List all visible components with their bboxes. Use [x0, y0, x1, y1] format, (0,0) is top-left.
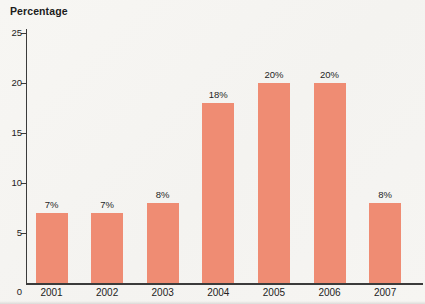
bar-2001	[36, 213, 68, 283]
x-category-label: 2003	[141, 287, 185, 299]
x-category-label: 2002	[85, 287, 129, 299]
y-tick-label: 25	[0, 28, 22, 38]
bar-chart: Percentage 05101520257%20017%20028%20031…	[0, 0, 425, 304]
x-category-label: 2006	[308, 287, 352, 299]
x-category-label: 2001	[30, 287, 74, 299]
bar-value-label: 8%	[363, 189, 407, 200]
x-category-label: 2007	[363, 287, 407, 299]
x-category-label: 2005	[252, 287, 296, 299]
bar-2006	[314, 83, 346, 283]
y-tick-label: 5	[0, 228, 22, 238]
y-tick-label: 10	[0, 178, 22, 188]
bar-2004	[202, 103, 234, 283]
bar-2005	[258, 83, 290, 283]
bar-2007	[369, 203, 401, 283]
x-category-label: 2004	[196, 287, 240, 299]
bar-2002	[91, 213, 123, 283]
y-tick-label: 0	[0, 287, 22, 297]
bar-value-label: 20%	[252, 69, 296, 80]
bar-value-label: 7%	[85, 199, 129, 210]
x-axis-line	[26, 283, 424, 285]
bar-value-label: 8%	[141, 189, 185, 200]
bar-value-label: 20%	[308, 69, 352, 80]
bar-value-label: 7%	[30, 199, 74, 210]
y-tick-label: 20	[0, 78, 22, 88]
y-axis-line	[26, 29, 28, 283]
y-axis-title: Percentage	[10, 5, 68, 17]
bar-2003	[147, 203, 179, 283]
y-tick-label: 15	[0, 128, 22, 138]
bar-value-label: 18%	[196, 89, 240, 100]
